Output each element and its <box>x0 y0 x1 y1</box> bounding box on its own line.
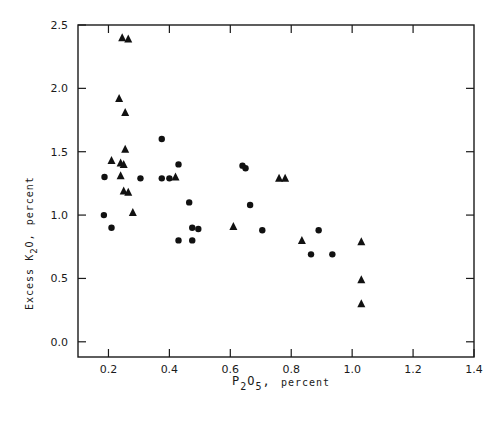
circle-marker-icon <box>101 212 107 218</box>
plot-border <box>78 25 474 357</box>
triangle-marker-icon <box>117 171 125 179</box>
y-tick-label: 0.5 <box>51 272 69 285</box>
x-label-unit: percent <box>281 377 330 388</box>
x-tick-label: 1.2 <box>404 363 422 376</box>
x-tick-label: 0.8 <box>282 363 300 376</box>
x-tick-label: 0.4 <box>161 363 179 376</box>
circle-marker-icon <box>159 175 165 181</box>
circle-marker-icon <box>175 161 181 167</box>
triangle-marker-icon <box>118 33 126 41</box>
scatter-chart: 0.20.40.60.81.01.21.4 0.00.51.01.52.02.5… <box>0 0 503 424</box>
x-label-comma: , <box>263 374 271 388</box>
y-axis-ticks: 0.00.51.01.52.02.5 <box>51 19 475 349</box>
circle-marker-icon <box>259 227 265 233</box>
y-tick-label: 2.5 <box>51 19 69 32</box>
x-tick-label: 1.0 <box>343 363 361 376</box>
circle-marker-icon <box>101 174 107 180</box>
triangle-marker-icon <box>115 94 123 102</box>
triangle-marker-icon <box>298 236 306 244</box>
x-tick-label: 1.4 <box>465 363 483 376</box>
y-tick-label: 0.0 <box>51 336 69 349</box>
circle-marker-icon <box>189 237 195 243</box>
y-tick-label: 1.5 <box>51 146 69 159</box>
y-label-unit: percent <box>24 176 35 225</box>
circle-marker-icon <box>195 226 201 232</box>
circle-marker-icon <box>189 225 195 231</box>
data-points <box>101 33 366 307</box>
triangle-marker-icon <box>108 156 116 164</box>
y-tick-label: 2.0 <box>51 82 69 95</box>
circle-marker-icon <box>308 251 314 257</box>
circle-marker-icon <box>242 165 248 171</box>
triangle-marker-icon <box>357 237 365 245</box>
circle-marker-icon <box>159 136 165 142</box>
y-axis-title: Excess K2O,percent <box>24 176 39 310</box>
triangle-marker-icon <box>171 173 179 181</box>
circle-marker-icon <box>186 199 192 205</box>
x-label-p: P <box>232 374 240 388</box>
y-tick-label: 1.0 <box>51 209 69 222</box>
triangle-marker-icon <box>124 34 132 42</box>
triangle-marker-icon <box>121 145 129 153</box>
y-label-o: O, <box>24 233 35 247</box>
circle-marker-icon <box>108 225 114 231</box>
circle-marker-icon <box>137 175 143 181</box>
circle-marker-icon <box>329 251 335 257</box>
y-label-prefix: Excess K <box>24 254 35 310</box>
circle-marker-icon <box>166 175 172 181</box>
x-tick-label: 0.2 <box>100 363 118 376</box>
triangle-marker-icon <box>281 174 289 182</box>
svg-text:Excess K2O,percent: Excess K2O,percent <box>24 176 39 310</box>
triangle-marker-icon <box>229 222 237 230</box>
x-label-o: O <box>247 374 255 388</box>
x-label-sub-5: 5 <box>256 381 263 392</box>
triangle-marker-icon <box>357 299 365 307</box>
triangle-marker-icon <box>121 108 129 116</box>
triangle-marker-icon <box>129 208 137 216</box>
x-label-sub-2: 2 <box>240 381 247 392</box>
circle-marker-icon <box>247 202 253 208</box>
triangle-marker-icon <box>357 275 365 283</box>
circle-marker-icon <box>175 237 181 243</box>
x-axis-title: P2O5, percent <box>232 374 330 392</box>
plot-frame <box>78 25 474 357</box>
circle-marker-icon <box>315 227 321 233</box>
x-axis-ticks: 0.20.40.60.81.01.21.4 <box>100 25 483 376</box>
svg-text:P2O5,: P2O5, <box>232 374 271 392</box>
